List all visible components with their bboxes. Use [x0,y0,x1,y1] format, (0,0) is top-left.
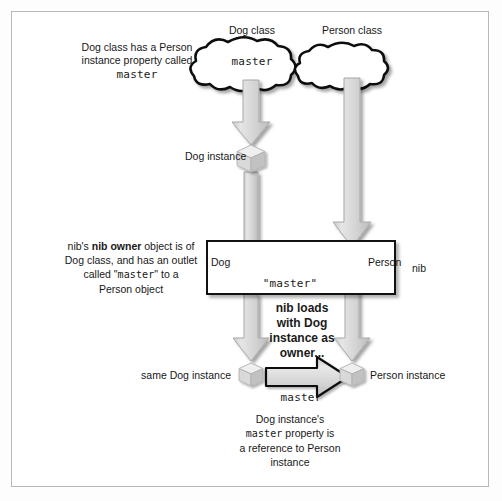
nib-owner-text-b: nib owner [92,240,142,252]
nib-person-label: Person [368,256,401,269]
nib-loads-line3: instance as [262,331,342,346]
bottom-caption-line2: master property is [215,427,365,440]
bottom-caption-line4: instance [215,456,365,469]
outlet-text-c: " to a [154,268,178,280]
nib-owner-text-a: nib's [68,240,92,252]
outlet-text-a: called " [84,268,118,280]
annotation-nib-owner-line1: nib's nib owner object is of [56,240,206,253]
nib-owner-text-c: object is of [141,240,194,252]
annotation-nib-owner-line3: called "master" to a [56,268,206,281]
person-class-label: Person class [306,24,398,37]
annotation-nib-owner-line2: Dog class, and has an outlet [56,254,206,267]
annotation-nib-owner-line4: Person object [56,283,206,296]
dog-class-label: Dog class [206,24,298,37]
dog-instance-label: Dog instance [185,150,235,163]
nib-loads-line4: owner... [262,346,342,361]
bottom-caption-line1: Dog instance's [215,413,365,426]
annotation-dog-has-person-line1: Dog class has a Person [62,41,212,54]
dog-cloud-master-text: master [208,55,296,69]
figure-canvas: Dog class Person class master Dog class … [0,0,502,501]
same-dog-instance-label: same Dog instance [131,369,231,382]
bottom-caption-mono: master [246,428,283,439]
bottom-caption-mono-tail: property is [282,427,334,439]
nib-loads-line1: nib loads [262,301,342,316]
annotation-dog-has-person-line2: instance property called [62,54,212,67]
nib-outlet-name: "master" [245,277,335,291]
nib-label: nib [412,262,426,275]
person-instance-label: Person instance [370,369,445,382]
nib-dog-label: Dog [211,256,230,269]
nib-loads-line2: with Dog [262,316,342,331]
outlet-text-mono: master [118,269,155,280]
bottom-caption-line3: a reference to Person [215,442,365,455]
annotation-dog-has-person-mono: master [62,68,212,82]
master-arrow-label: master [256,391,346,405]
